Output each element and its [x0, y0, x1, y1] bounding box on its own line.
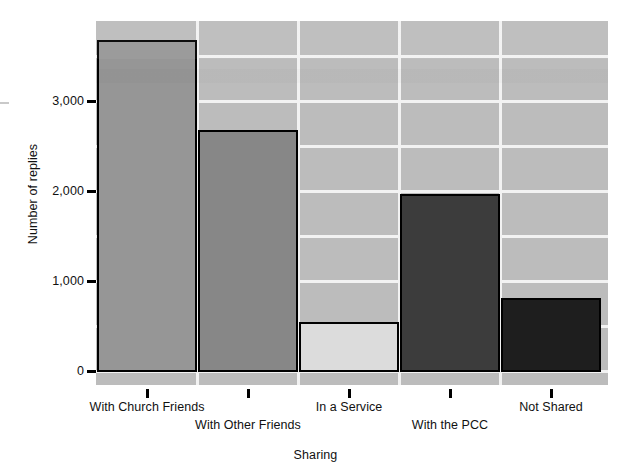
y-tick-label-1000: 1,000 [36, 274, 84, 288]
y-tick-label-3000: 3,000 [36, 94, 84, 108]
bar-with-other-friends[interactable] [198, 130, 298, 372]
bar-not-shared[interactable] [501, 298, 601, 372]
x-axis-title: Sharing [0, 448, 631, 462]
bar-with-the-pcc[interactable] [400, 194, 500, 372]
bar-with-church-friends[interactable] [97, 40, 197, 372]
y-tick-mark-3000 [87, 100, 96, 103]
x-tick-label-with-other-friends: With Other Friends [195, 418, 301, 432]
bar-chart-figure: Number of replies 0 1,000 2,000 3,000 [0, 0, 631, 473]
x-tick-mark-3 [348, 389, 351, 398]
scan-edge-artifact [0, 102, 9, 104]
x-tick-label-in-a-service: In a Service [316, 400, 383, 414]
x-tick-label-with-the-pcc: With the PCC [412, 418, 488, 432]
x-tick-label-not-shared: Not Shared [519, 400, 583, 414]
bar-in-a-service[interactable] [299, 322, 399, 372]
x-tick-mark-1 [146, 389, 149, 398]
plot-area [96, 21, 608, 385]
y-tick-label-0: 0 [36, 364, 84, 378]
y-tick-label-2000: 2,000 [36, 184, 84, 198]
x-tick-mark-2 [247, 389, 250, 398]
y-tick-mark-2000 [87, 190, 96, 193]
x-tick-label-with-church-friends: With Church Friends [90, 400, 205, 414]
y-tick-mark-0 [87, 370, 96, 373]
y-tick-mark-1000 [87, 280, 96, 283]
x-tick-mark-4 [449, 389, 452, 398]
x-tick-mark-5 [550, 389, 553, 398]
